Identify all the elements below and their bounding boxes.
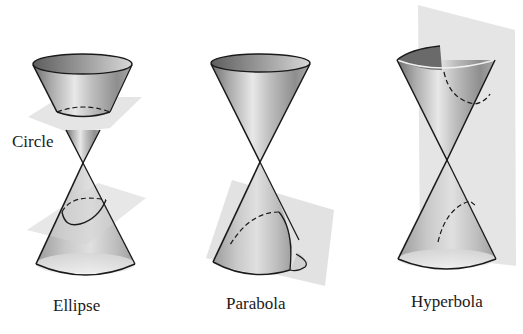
hyperbola-panel	[397, 5, 516, 269]
ellipse-caption: Ellipse	[53, 296, 100, 316]
upper-rim-inner	[33, 54, 132, 74]
upper-nappe	[211, 64, 310, 162]
lower-base	[36, 253, 135, 275]
circle-label: Circle	[12, 132, 54, 152]
parabola-caption: Parabola	[226, 294, 285, 314]
conic-sections-figure: Circle Ellipse Parabola Hyperbola	[0, 0, 523, 334]
hyperbola-caption: Hyperbola	[411, 292, 483, 312]
parabola-panel	[206, 54, 334, 286]
upper-rim-inner	[211, 54, 310, 72]
lower-base	[398, 249, 496, 269]
tilted-plane	[27, 183, 146, 245]
ellipse-panel	[27, 54, 146, 275]
